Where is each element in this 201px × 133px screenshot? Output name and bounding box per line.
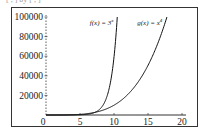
y-tick-label: 80000 bbox=[19, 32, 43, 42]
g-label: g(x) = x4 bbox=[137, 18, 163, 27]
x-tick-label: 20 bbox=[177, 117, 187, 127]
exponential-vs-power-chart: 0510152020000400006000080000100000 f(x) … bbox=[0, 0, 201, 133]
y-tick-label: 20000 bbox=[19, 91, 43, 101]
x-tick-label: 5 bbox=[78, 117, 83, 127]
x-tick-label: 0 bbox=[41, 117, 46, 127]
x-tick-label: 10 bbox=[109, 117, 119, 127]
y-tick-label: 40000 bbox=[19, 71, 43, 81]
y-tick-label: 100000 bbox=[15, 12, 44, 22]
f-label: f(x) = 3x bbox=[90, 18, 114, 27]
x-tick-label: 15 bbox=[143, 117, 153, 127]
y-tick-label: 60000 bbox=[19, 51, 43, 61]
